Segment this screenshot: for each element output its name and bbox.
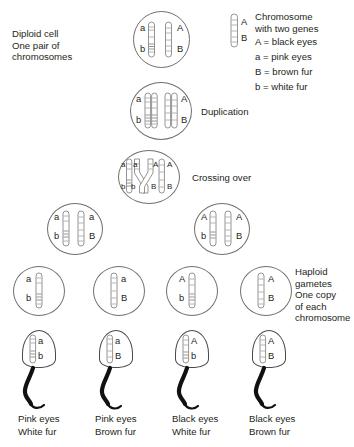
sperm-3-allele-bottom: b [191,351,196,361]
sperm-1-allele-bottom: b [38,351,43,361]
sperm-2-fur-label: Brown fur [95,426,136,438]
sperm-4-eyes-label: Black eyes [249,413,295,425]
sperm-3-allele-top: A [191,336,197,346]
sperm-2-allele-bottom: B [115,351,121,361]
sperm-1-eyes-label: Pink eyes [18,413,60,425]
sperm-2-allele-top: a [115,336,120,346]
meiosis-diagram: Diploid cell One pair of chromosomes a b… [0,0,354,447]
sperm-1-fur-label: White fur [18,426,56,438]
sperm-4-allele-bottom: B [268,351,274,361]
sperm-3-fur-label: White fur [172,426,210,438]
sperm-3-eyes-label: Black eyes [172,413,218,425]
sperm-chromosomes-and-tails [0,0,354,447]
sperm-4-fur-label: Brown fur [249,426,290,438]
sperm-1-allele-top: a [38,336,43,346]
sperm-4-allele-top: A [268,336,274,346]
sperm-2-eyes-label: Pink eyes [95,413,137,425]
